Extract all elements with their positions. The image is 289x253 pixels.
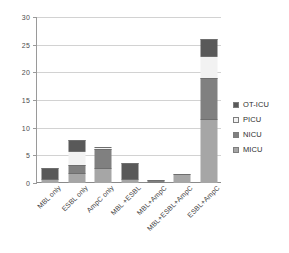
bar-segment-micu[interactable] — [68, 173, 85, 183]
bar[interactable] — [68, 140, 85, 183]
legend-swatch-icon — [233, 147, 239, 153]
plot-area: 051015202530 — [36, 17, 221, 183]
bar-segment-micu[interactable] — [200, 119, 217, 183]
legend-item-nicu[interactable]: NICU — [233, 130, 269, 139]
legend-item-micu[interactable]: MICU — [233, 145, 269, 154]
bar[interactable] — [42, 168, 59, 183]
legend-label: OT-ICU — [243, 100, 269, 109]
bar-segment-nicu[interactable] — [147, 180, 164, 183]
bar-group — [37, 17, 221, 183]
legend-item-picu[interactable]: PICU — [233, 115, 269, 124]
bar-segment-micu[interactable] — [174, 174, 191, 183]
y-axis-tick-label: 10 — [22, 124, 30, 131]
legend-swatch-icon — [233, 132, 239, 138]
x-axis-label: MBL+ESBL+AmpC — [146, 184, 194, 232]
legend-item-ot-icu[interactable]: OT-ICU — [233, 100, 269, 109]
bar-segment-nicu[interactable] — [200, 78, 217, 120]
legend-label: MICU — [243, 145, 263, 154]
bar-segment-micu[interactable] — [121, 179, 138, 183]
stacked-bar-chart: 051015202530 MBL onlyESBL onlyAmpC onlyM… — [0, 0, 289, 253]
chart-legend: OT-ICUPICUNICUMICU — [233, 100, 269, 154]
bar-segment-picu[interactable] — [200, 56, 217, 78]
x-axis-label: MBL only — [36, 184, 62, 210]
bar-segment-micu[interactable] — [42, 179, 59, 183]
y-axis-tick-label: 5 — [26, 152, 30, 159]
bar[interactable] — [121, 163, 138, 183]
y-axis-tick-label: 15 — [22, 97, 30, 104]
y-axis-tick-label: 25 — [22, 41, 30, 48]
bar-segment-picu[interactable] — [68, 151, 85, 165]
legend-swatch-icon — [233, 117, 239, 123]
bar-segment-ot-icu[interactable] — [68, 140, 85, 151]
bar-segment-ot-icu[interactable] — [200, 39, 217, 56]
y-axis-tick-label: 0 — [26, 180, 30, 187]
bar[interactable] — [147, 180, 164, 183]
legend-label: PICU — [243, 115, 261, 124]
bar[interactable] — [95, 147, 112, 183]
y-axis-tick-label: 30 — [22, 14, 30, 21]
bar[interactable] — [200, 39, 217, 183]
legend-swatch-icon — [233, 102, 239, 108]
bar-segment-ot-icu[interactable] — [121, 163, 138, 179]
bar-segment-micu[interactable] — [95, 168, 112, 183]
bar-segment-ot-icu[interactable] — [42, 168, 59, 180]
x-axis-labels: MBL onlyESBL onlyAmpC onlyMBL +ESBLMBL+A… — [36, 184, 221, 250]
bar[interactable] — [174, 174, 191, 183]
y-axis-tick-label: 20 — [22, 69, 30, 76]
bar-segment-nicu[interactable] — [68, 165, 85, 173]
legend-label: NICU — [243, 130, 262, 139]
bar-segment-nicu[interactable] — [95, 149, 112, 168]
